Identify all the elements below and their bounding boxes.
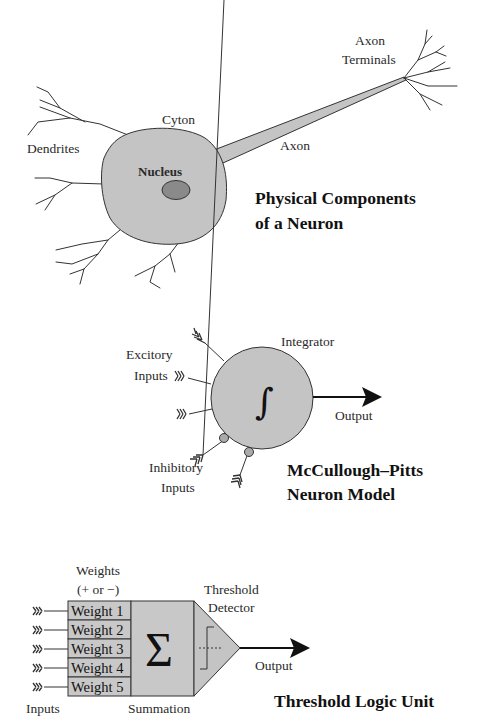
title-tlu: Threshold Logic Unit [274, 691, 434, 711]
label-integrator: Integrator [281, 334, 335, 349]
weight-4-label: Weight 4 [71, 660, 124, 676]
label-mp-output: Output [335, 408, 373, 423]
label-inhibitory-line1: Inhibitory [149, 460, 203, 475]
neural-diagram: Dendrites Cyton Nucleus Axon Axon Termin… [0, 0, 489, 716]
label-threshold-line2: Detector [208, 600, 255, 615]
label-nucleus: Nucleus [138, 164, 182, 179]
label-excitory-line2: Inputs [134, 368, 168, 383]
sigma-icon: Σ [145, 623, 173, 676]
physical-neuron-panel: Dendrites Cyton Nucleus Axon Axon Termin… [27, 30, 457, 288]
arrow-feathers-icon [33, 607, 42, 691]
tlu-inputs [44, 611, 68, 687]
label-axon-terminals-line2: Terminals [342, 52, 396, 67]
title-mp-line2: Neuron Model [287, 484, 395, 504]
nucleus [162, 181, 190, 200]
title-physical-neuron-line2: of a Neuron [255, 213, 343, 233]
weight-3-label: Weight 3 [71, 641, 123, 657]
inhibitory-synapse [245, 448, 254, 457]
mcculloch-pitts-panel: ∫ Integrator Excitory Inputs Inhibitory … [126, 0, 423, 504]
label-excitory-line1: Excitory [126, 347, 173, 362]
label-threshold-line1: Threshold [204, 582, 259, 597]
title-mp-line1: McCullough–Pitts [287, 460, 423, 480]
weight-column: Weight 1 Weight 2 Weight 3 Weight 4 Weig… [68, 601, 131, 696]
axon [214, 77, 406, 163]
label-dendrites: Dendrites [27, 141, 79, 156]
label-axon: Axon [280, 138, 310, 153]
label-inhibitory-line2: Inputs [161, 480, 195, 495]
label-summation: Summation [128, 701, 191, 716]
label-inputs: Inputs [26, 701, 60, 716]
label-axon-terminals-line1: Axon [355, 33, 385, 48]
label-tlu-output: Output [255, 658, 293, 673]
label-cyton: Cyton [162, 112, 195, 127]
arrow-feathers-icon [175, 328, 205, 419]
weight-5-label: Weight 5 [71, 679, 123, 695]
axon-terminals [404, 30, 457, 110]
tlu-panel: Weight 1 Weight 2 Weight 3 Weight 4 Weig… [26, 563, 434, 716]
weight-2-label: Weight 2 [71, 622, 123, 638]
integral-icon: ∫ [255, 381, 274, 422]
label-weights-line1: Weights [76, 563, 120, 578]
title-physical-neuron-line1: Physical Components [255, 188, 416, 208]
weight-1-label: Weight 1 [71, 603, 123, 619]
label-weights-line2: (+ or −) [77, 582, 119, 597]
